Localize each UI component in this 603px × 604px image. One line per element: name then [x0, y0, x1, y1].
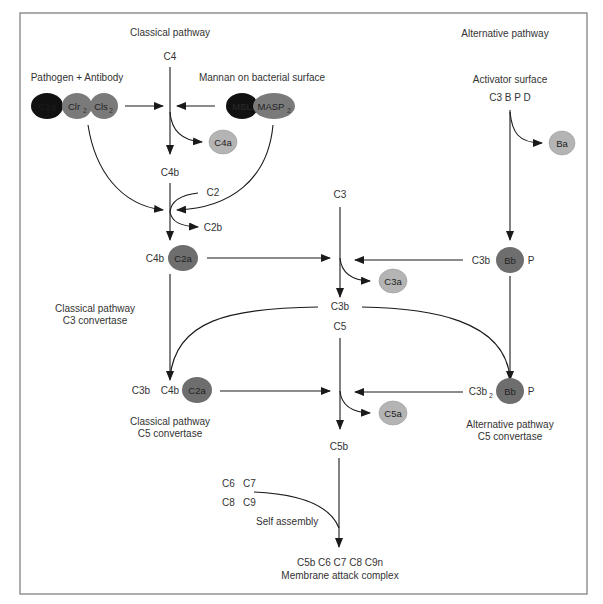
label-clr: Clr — [68, 101, 80, 112]
label-alt-c5-convertase-2: C5 convertase — [478, 431, 543, 442]
svg-text:Clr: Clr — [68, 101, 80, 112]
label-classical-c5-convertase-1: Classical pathway — [130, 416, 210, 427]
label-c4b-conv: C4b — [146, 253, 165, 264]
label-c5b: C5b — [330, 441, 349, 452]
label-bb: Bb — [504, 255, 516, 266]
svg-text:Cls: Cls — [94, 101, 108, 112]
label-clr-sub: 2 — [83, 107, 87, 114]
alternative-pathway-title: Alternative pathway — [461, 28, 548, 39]
label-membrane-attack-complex: Membrane attack complex — [281, 570, 398, 581]
curve-c3b-to-classical — [170, 307, 318, 378]
label-activator-surface: Activator surface — [473, 74, 548, 85]
label-alt-c3b2-sub: 2 — [489, 392, 493, 399]
arrow-to-c5a — [340, 391, 370, 413]
label-c3b: C3b — [331, 301, 350, 312]
arrow-to-c3a — [340, 258, 370, 281]
label-pathogen-antibody: Pathogen + Antibody — [31, 72, 124, 83]
label-ba: Ba — [556, 138, 568, 149]
label-cls-sub: 2 — [109, 107, 113, 114]
label-c8-c9: C8 C9 — [222, 497, 256, 508]
label-bb-c5conv: Bb — [504, 386, 516, 397]
label-c6-c7: C6 C7 — [222, 478, 256, 489]
label-c3-b-p-d: C3 B P D — [489, 92, 531, 103]
curve-c3b-to-alternative — [362, 307, 510, 378]
label-masp: MASP — [258, 101, 285, 112]
label-alt-c3b2: C3b — [469, 386, 488, 397]
label-alt-c5-convertase-1: Alternative pathway — [466, 419, 553, 430]
arrow-to-c4a — [170, 112, 202, 142]
label-c5conv-c2a: C2a — [188, 385, 206, 396]
label-c2a: C2a — [174, 253, 192, 264]
label-c5a: C5a — [384, 408, 402, 419]
label-c2b: C2b — [204, 222, 223, 233]
label-p: P — [528, 255, 535, 266]
label-c3: C3 — [334, 189, 347, 200]
arrow-to-c2b — [170, 212, 198, 227]
label-self-assembly: Self assembly — [256, 516, 318, 527]
label-mannan: Mannan on bacterial surface — [199, 72, 326, 83]
label-classical-c5-convertase-2: C5 convertase — [138, 428, 203, 439]
classical-pathway-title: Classical pathway — [130, 27, 210, 38]
mbl-complex: MBL MASP 2 — [226, 93, 295, 119]
arrow-to-ba — [510, 112, 542, 143]
label-c4b: C4b — [161, 167, 180, 178]
arrow-c1-to-c4b — [88, 125, 163, 210]
label-mac-components: C5b C6 C7 C8 C9n — [297, 557, 383, 568]
label-c5conv-c4b: C4b — [161, 385, 180, 396]
label-classical-c3-convertase-2: C3 convertase — [63, 315, 128, 326]
complement-pathway-diagram: Classical pathway Alternative pathway C4… — [0, 0, 603, 604]
label-c4: C4 — [164, 51, 177, 62]
label-c3a: C3a — [384, 276, 402, 287]
label-alt-c3b: C3b — [472, 255, 491, 266]
label-c2: C2 — [207, 187, 220, 198]
label-classical-c3-convertase-1: Classical pathway — [55, 303, 135, 314]
label-cls: Cls — [94, 101, 108, 112]
label-c1q: C1q — [38, 101, 55, 112]
label-mbl: MBL — [232, 101, 252, 112]
c1-complex: C1q Clr 2 Cls 2 — [31, 93, 118, 119]
label-masp-sub: 2 — [287, 107, 291, 114]
label-p-c5conv: P — [528, 386, 535, 397]
label-c4a: C4a — [214, 137, 232, 148]
label-c5: C5 — [334, 321, 347, 332]
label-c5conv-c3b: C3b — [132, 385, 151, 396]
